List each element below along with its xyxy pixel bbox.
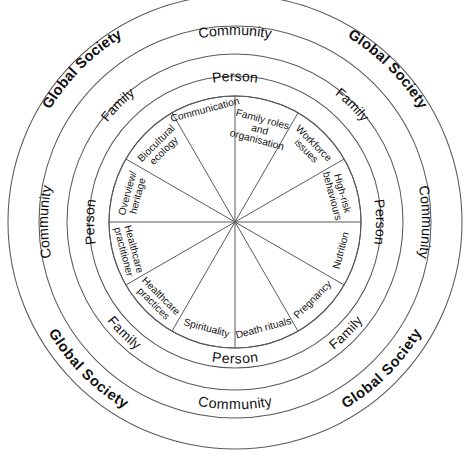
wedge-label-group: Overview/heritage bbox=[116, 170, 149, 219]
wedge-label-group: Workforceissues bbox=[286, 123, 334, 171]
wedge-label-group: Death rituals bbox=[234, 315, 292, 340]
wedge-label: Death rituals bbox=[234, 315, 292, 340]
wedge-label: Healthcarepractitioner bbox=[112, 223, 146, 278]
wedge-labels-group: Overview/heritageBioculturalecologyCommu… bbox=[112, 95, 354, 340]
wedge-label-group: Healthcarepractices bbox=[132, 275, 182, 325]
pie-spoke bbox=[235, 222, 344, 285]
wedge-label-group: Bioculturalecology bbox=[135, 122, 184, 171]
pie-spoke bbox=[126, 222, 235, 285]
wedge-label: Nutrition bbox=[331, 231, 351, 270]
ring-label-family: Family bbox=[326, 313, 365, 352]
wedge-label-group: Nutrition bbox=[331, 231, 351, 270]
wedge-label-group: Healthcarepractitioner bbox=[112, 223, 146, 278]
ring-label-family: Family bbox=[105, 313, 144, 352]
ring-label-family: Family bbox=[98, 85, 137, 124]
wedge-label: High-riskbehaviours bbox=[321, 168, 355, 222]
ring-label-community: Community bbox=[415, 184, 435, 261]
ring-label-person: Person bbox=[211, 68, 259, 86]
ring-label-person: Person bbox=[211, 349, 259, 367]
ring-label-global-society: Global Society bbox=[346, 26, 432, 112]
ring-label-community: Community bbox=[197, 393, 274, 413]
diagram-canvas: Global SocietyGlobal SocietyGlobal Socie… bbox=[0, 0, 471, 456]
ring-label-person: Person bbox=[371, 198, 389, 246]
ring-label-person: Person bbox=[81, 198, 99, 246]
wedge-label: Workforceissues bbox=[286, 123, 334, 171]
ring-label-global-society: Global Society bbox=[39, 25, 125, 111]
wedge-label-group: Family rolesandorganisation bbox=[229, 107, 291, 152]
wedge-label-group: Pregnancy bbox=[291, 278, 334, 321]
wedge-label: Pregnancy bbox=[291, 278, 334, 321]
wedge-label: Healthcarepractices bbox=[132, 275, 182, 325]
ring-label-community: Community bbox=[35, 183, 55, 260]
wedge-label-group: Spirituality bbox=[183, 316, 232, 339]
pie-spoke bbox=[172, 113, 235, 222]
wedge-label: Family rolesandorganisation bbox=[229, 107, 291, 152]
wedge-label-group: High-riskbehaviours bbox=[321, 168, 355, 222]
wedge-label: Bioculturalecology bbox=[135, 122, 184, 171]
wedge-label: Overview/heritage bbox=[116, 170, 149, 219]
ring-label-community: Community bbox=[197, 22, 274, 42]
ring-label-family: Family bbox=[333, 85, 372, 124]
pie-spoke bbox=[172, 222, 235, 331]
wedge-label: Spirituality bbox=[183, 316, 232, 339]
purnell-model-diagram: Global SocietyGlobal SocietyGlobal Socie… bbox=[0, 0, 471, 456]
